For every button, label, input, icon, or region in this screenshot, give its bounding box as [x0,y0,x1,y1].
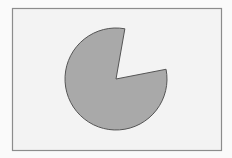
diagram-canvas [0,0,232,158]
